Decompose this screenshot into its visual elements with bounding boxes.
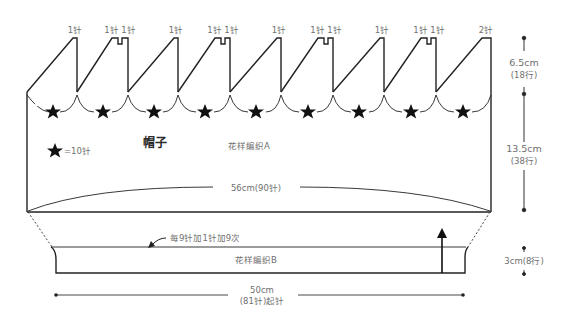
star-icon bbox=[45, 104, 61, 119]
diagram-title: 帽子 bbox=[143, 135, 167, 150]
star-icon bbox=[403, 104, 419, 119]
stitch-label: 1针 bbox=[272, 25, 286, 35]
cast-on-width-label: 50cm bbox=[250, 285, 274, 295]
body-rows-label: (38行) bbox=[511, 156, 537, 166]
star-icon bbox=[146, 104, 162, 119]
taper-dotted-lines bbox=[28, 212, 490, 247]
stitch-label: 1针 bbox=[68, 25, 82, 35]
pattern-b-label: 花样编织B bbox=[235, 255, 277, 265]
ribbing-height-label: 3cm(8行) bbox=[504, 256, 543, 266]
stitch-label: 1针 1针 bbox=[104, 25, 136, 35]
crown-decrease-teeth bbox=[27, 38, 491, 92]
increase-pointer-arrow bbox=[148, 238, 166, 248]
increase-note: 每9针加1针加9次 bbox=[170, 233, 240, 243]
star-icon bbox=[197, 104, 213, 119]
pattern-a-label: 花样编织A bbox=[228, 141, 270, 151]
crown-height-label: 6.5cm bbox=[509, 57, 539, 68]
stitch-label: 2针 bbox=[479, 25, 493, 35]
body-height-label: 13.5cm bbox=[506, 143, 542, 154]
stitch-label: 1针 1针 bbox=[310, 25, 342, 35]
scallop-arcs bbox=[27, 95, 491, 112]
hat-knitting-diagram: 1针 1针 1针 1针 1针 1针 1针 1针 1针 1针 1针 1针 2针 =… bbox=[0, 0, 561, 324]
legend: =10针 bbox=[47, 143, 91, 158]
legend-text: =10针 bbox=[64, 146, 91, 156]
stitch-label: 1针 1针 bbox=[413, 25, 445, 35]
body-width-label: 56cm(90针) bbox=[231, 183, 281, 193]
cast-on-stitches-label: (81针)起针 bbox=[240, 296, 284, 306]
top-stitch-labels: 1针 1针 1针 1针 1针 1针 1针 1针 1针 1针 1针 1针 2针 bbox=[68, 25, 493, 35]
arrow-up-icon bbox=[437, 228, 447, 238]
star-icon bbox=[248, 104, 264, 119]
star-icon bbox=[95, 104, 111, 119]
star-icon bbox=[455, 104, 471, 119]
crown-rows-label: (18行) bbox=[511, 70, 537, 80]
star-icon bbox=[300, 104, 316, 119]
star-icon bbox=[351, 104, 367, 119]
stitch-stars bbox=[45, 104, 471, 119]
star-icon bbox=[47, 143, 63, 158]
stitch-label: 1针 bbox=[169, 25, 183, 35]
knitting-direction-arrow bbox=[437, 228, 447, 273]
stitch-label: 1针 bbox=[375, 25, 389, 35]
stitch-label: 1针 1针 bbox=[207, 25, 239, 35]
